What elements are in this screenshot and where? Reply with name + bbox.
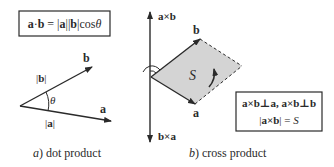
cross-formula-line2: |a×b| = S <box>259 114 299 126</box>
vector-a-arrow <box>20 106 111 121</box>
axb-label: a×b <box>158 10 176 22</box>
right-angle-arc-inner <box>150 71 156 73</box>
magnitude-b-label: |b| <box>36 72 47 84</box>
parallelogram-area <box>152 39 242 104</box>
dot-product-panel: a·b = |a||b|cosθ b a |b| θ |a| a) dot pr… <box>19 11 111 160</box>
dot-formula: a·b = |a||b|cosθ <box>28 17 102 31</box>
bxa-label: b×a <box>158 130 176 142</box>
right-angle-arc-outer <box>150 66 160 70</box>
cross-vector-b-label: b <box>193 23 200 37</box>
cross-caption: b) cross product <box>189 146 267 160</box>
right-angle-arc-left <box>143 66 150 72</box>
theta-label: θ <box>50 94 56 106</box>
theta-arc <box>46 92 49 111</box>
cross-formula-line1: a×b⊥a, a×b⊥b <box>242 97 316 109</box>
vector-products-diagram: a·b = |a||b|cosθ b a |b| θ |a| a) dot pr… <box>0 0 334 167</box>
vector-a-label: a <box>100 102 106 116</box>
cross-product-panel: a×b b×a b a S a×b⊥a, a×b⊥b |a×b| = S b) … <box>143 10 322 160</box>
cross-vector-a-label: a <box>193 106 199 120</box>
magnitude-a-label: |a| <box>45 117 55 129</box>
vector-b-arrow <box>20 67 92 106</box>
dot-caption: a) dot product <box>33 146 102 160</box>
area-s-label: S <box>189 68 196 83</box>
vector-b-label: b <box>83 51 90 65</box>
